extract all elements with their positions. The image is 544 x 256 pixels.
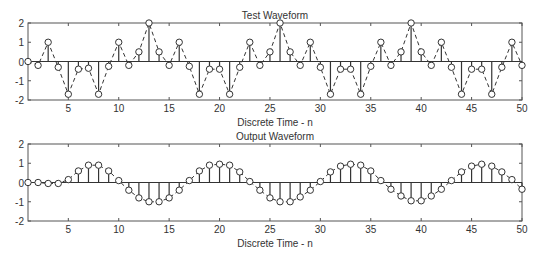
x-tick-label: 35 xyxy=(365,224,377,235)
x-tick-label: 5 xyxy=(66,224,72,235)
stem-marker xyxy=(408,198,414,204)
y-tick-label: -1 xyxy=(15,197,24,208)
stem-marker xyxy=(489,163,495,169)
x-tick-label: 10 xyxy=(113,224,125,235)
stem-marker xyxy=(105,63,111,69)
stem-marker xyxy=(65,176,71,182)
stem-marker xyxy=(287,199,293,205)
figure: Test Waveform Discrete Time - n 51015202… xyxy=(0,0,544,256)
x-tick-label: 30 xyxy=(315,103,327,114)
x-tick-label: 50 xyxy=(516,224,528,235)
stem-marker xyxy=(478,161,484,167)
stem-marker xyxy=(237,169,243,175)
stem-marker xyxy=(126,62,132,68)
stem-marker xyxy=(45,39,51,45)
stem-marker xyxy=(277,20,283,26)
stem-marker xyxy=(398,49,404,55)
stem-marker xyxy=(519,62,525,68)
stem-marker xyxy=(357,91,363,97)
stem-marker xyxy=(368,63,374,69)
stem-marker xyxy=(267,195,273,201)
x-tick-label: 5 xyxy=(66,103,72,114)
stem-marker xyxy=(368,168,374,174)
x-tick-label: 50 xyxy=(516,103,528,114)
stem-marker xyxy=(226,162,232,168)
stem-marker xyxy=(25,179,31,185)
stem-marker xyxy=(468,66,474,72)
x-tick-label: 45 xyxy=(466,224,478,235)
y-tick-label: 1 xyxy=(18,158,24,169)
y-tick-label: -2 xyxy=(15,95,24,106)
stem-marker xyxy=(186,177,192,183)
stem-marker xyxy=(196,91,202,97)
y-tick-label: 0 xyxy=(18,178,24,189)
x-tick-label: 40 xyxy=(416,224,428,235)
x-tick-label: 25 xyxy=(264,224,276,235)
x-axis-label: Discrete Time - n xyxy=(237,238,313,249)
stem-marker xyxy=(378,39,384,45)
stem-marker xyxy=(247,39,253,45)
stem-marker xyxy=(146,20,152,26)
stem-marker xyxy=(95,162,101,168)
stem-marker xyxy=(166,195,172,201)
stem-marker xyxy=(257,187,263,193)
stem-marker xyxy=(116,39,122,45)
stem-marker xyxy=(85,162,91,168)
stem-marker xyxy=(156,199,162,205)
stem-marker xyxy=(45,180,51,186)
stem-marker xyxy=(347,161,353,167)
y-tick-label: -1 xyxy=(15,76,24,87)
stem-marker xyxy=(489,91,495,97)
stem-marker xyxy=(327,169,333,175)
stem-marker xyxy=(75,168,81,174)
stem-marker xyxy=(458,169,464,175)
stem-marker xyxy=(247,178,253,184)
stem-marker xyxy=(337,163,343,169)
stem-marker xyxy=(136,195,142,201)
stem-marker xyxy=(126,187,132,193)
stem-marker xyxy=(448,177,454,183)
stem-marker xyxy=(317,178,323,184)
stem-marker xyxy=(105,168,111,174)
x-tick-label: 20 xyxy=(214,224,226,235)
stem-marker xyxy=(116,177,122,183)
stem-marker xyxy=(327,91,333,97)
stem-marker xyxy=(428,193,434,199)
x-tick-label: 15 xyxy=(164,103,176,114)
stem-marker xyxy=(418,49,424,55)
stem-marker xyxy=(478,66,484,72)
stem-marker xyxy=(206,162,212,168)
plot-title: Test Waveform xyxy=(242,10,308,21)
stem-marker xyxy=(378,177,384,183)
stem-marker xyxy=(267,49,273,55)
stem-marker xyxy=(95,91,101,97)
stem-marker xyxy=(337,66,343,72)
y-tick-label: 2 xyxy=(18,18,24,29)
stem-marker xyxy=(176,187,182,193)
stem-marker xyxy=(438,39,444,45)
stem-marker xyxy=(55,180,61,186)
stem-marker xyxy=(166,62,172,68)
stem-marker xyxy=(146,199,152,205)
stem-marker xyxy=(196,168,202,174)
x-tick-label: 45 xyxy=(466,103,478,114)
x-axis-label: Discrete Time - n xyxy=(237,117,313,128)
stem-marker xyxy=(85,65,91,71)
stem-marker xyxy=(388,186,394,192)
stem-marker xyxy=(287,49,293,55)
stem-marker xyxy=(55,64,61,70)
stem-marker xyxy=(206,66,212,72)
stem-marker xyxy=(136,49,142,55)
stem-marker xyxy=(438,186,444,192)
stem-marker xyxy=(499,64,505,70)
stem-marker xyxy=(307,39,313,45)
stem-marker xyxy=(35,179,41,185)
stem-marker xyxy=(35,62,41,68)
stem-marker xyxy=(398,193,404,199)
y-tick-label: -2 xyxy=(15,216,24,227)
stem-marker xyxy=(25,58,31,64)
stem-marker xyxy=(176,39,182,45)
stem-marker xyxy=(388,62,394,68)
dashed-connector-line xyxy=(28,23,522,94)
stem-marker xyxy=(448,64,454,70)
